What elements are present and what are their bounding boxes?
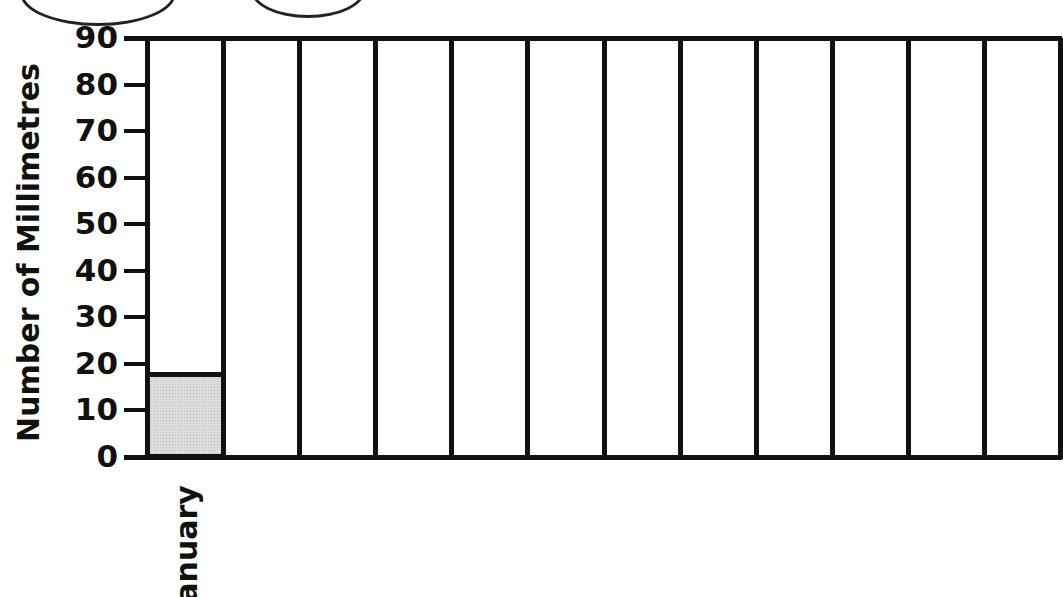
column-divider <box>1058 38 1063 459</box>
column-divider <box>754 38 759 459</box>
y-tick-label: 60 <box>58 162 118 193</box>
y-tick-label: 30 <box>58 301 118 332</box>
column-divider <box>449 38 454 459</box>
x-axis-baseline <box>124 455 1062 460</box>
y-tick-label: 70 <box>58 115 118 146</box>
column-divider <box>678 38 683 459</box>
column-divider <box>297 38 302 459</box>
y-tick-label: 0 <box>58 441 118 472</box>
y-axis-label: Number of Millimetres <box>6 52 50 452</box>
x-tick-label: January <box>166 470 206 597</box>
y-tick-label: 80 <box>58 69 118 100</box>
column-divider <box>221 38 226 459</box>
column-divider <box>373 38 378 459</box>
chart-top-border <box>124 36 1062 41</box>
bar-january <box>145 372 226 459</box>
y-tick-label: 10 <box>58 394 118 425</box>
column-divider <box>525 38 530 459</box>
y-axis-line <box>145 38 150 459</box>
column-divider <box>830 38 835 459</box>
column-divider <box>982 38 987 459</box>
column-divider <box>906 38 911 459</box>
y-tick-label: 40 <box>58 255 118 286</box>
y-tick-label: 20 <box>58 348 118 379</box>
column-divider <box>602 38 607 459</box>
y-tick-label: 90 <box>58 22 118 53</box>
y-tick-label: 50 <box>58 208 118 239</box>
cloud-illustration-right <box>250 0 366 18</box>
